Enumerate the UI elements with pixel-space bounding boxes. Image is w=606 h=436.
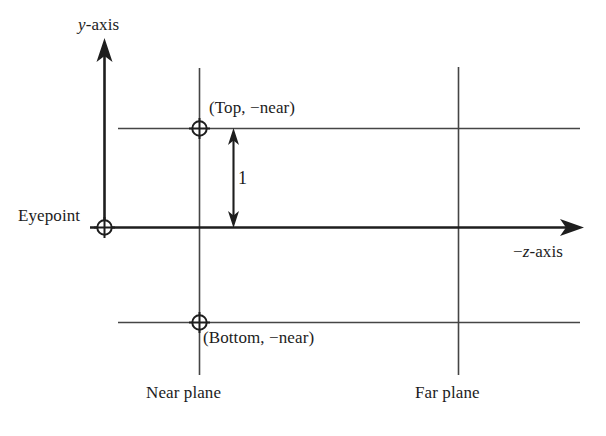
eyepoint-label: Eyepoint	[18, 207, 80, 224]
near-plane-label: Near plane	[146, 384, 221, 401]
z-axis-label: −z-axis	[513, 243, 563, 260]
far-plane-label: Far plane	[415, 384, 480, 401]
y-axis-label-variable: y	[78, 15, 86, 34]
top-near-label: (Top, −near)	[209, 99, 295, 116]
unit-dimension-label: 1	[238, 169, 247, 187]
point-markers	[94, 118, 210, 333]
y-axis-label-suffix: -axis	[86, 15, 120, 34]
z-axis-label-suffix: -axis	[529, 242, 563, 261]
diagram-canvas	[0, 0, 606, 436]
z-axis-label-sign: −	[513, 242, 523, 261]
bottom-near-label: (Bottom, −near)	[203, 329, 314, 346]
frustum-diagram: y-axis −z-axis Eyepoint (Top, −near) (Bo…	[0, 0, 606, 436]
y-axis-label: y-axis	[78, 16, 119, 33]
